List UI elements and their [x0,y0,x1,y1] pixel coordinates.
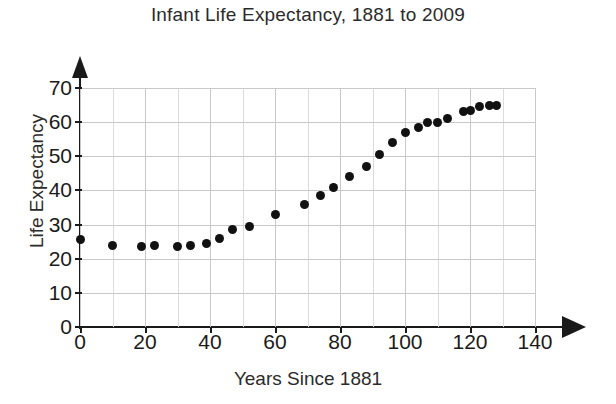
y-tick-mark [75,87,82,89]
x-tick-label: 20 [115,331,175,352]
data-point [76,235,85,244]
gridline-vertical [210,88,211,327]
data-point [433,118,442,127]
x-tick-label: 140 [505,331,565,352]
gridline-vertical [405,88,406,327]
x-tick-mark [210,327,212,333]
gridline-horizontal [80,225,535,226]
chart-title: Infant Life Expectancy, 1881 to 2009 [0,4,616,26]
x-tick-mark [340,327,342,333]
chart-container: Infant Life Expectancy, 1881 to 2009 010… [0,0,616,404]
data-point [271,210,280,219]
data-point [362,162,371,171]
y-tick-mark [75,189,82,191]
x-tick-label: 120 [440,331,500,352]
x-axis-arrow-icon [562,316,586,338]
gridline-horizontal [80,88,535,89]
data-point [401,128,410,137]
data-point [150,241,159,250]
x-axis-title: Years Since 1881 [0,368,616,390]
y-tick-mark [75,258,82,260]
data-point [186,241,195,250]
y-tick-mark [75,121,82,123]
x-tick-mark [535,327,537,333]
gridline-vertical [145,88,146,327]
y-axis-arrow-icon [72,56,88,78]
gridline-horizontal [80,293,535,294]
data-point [388,138,397,147]
data-point [108,241,117,250]
data-point [228,225,237,234]
data-point [300,200,309,209]
gridline-vertical [340,88,341,327]
gridline-vertical [535,88,536,327]
data-point [375,150,384,159]
y-tick-mark [75,155,82,157]
x-tick-mark [405,327,407,333]
data-point [475,102,484,111]
x-tick-label: 40 [180,331,240,352]
data-point [466,106,475,115]
x-tick-mark [80,327,82,333]
y-tick-mark [75,292,82,294]
data-point [215,234,224,243]
data-point [316,191,325,200]
x-tick-label: 80 [310,331,370,352]
x-tick-mark [275,327,277,333]
x-tick-label: 100 [375,331,435,352]
gridline-horizontal [80,156,535,157]
plot-area [80,88,535,327]
gridline-vertical [503,88,504,327]
data-point [443,114,452,123]
y-tick-mark [75,224,82,226]
gridline-vertical [178,88,179,327]
x-tick-mark [145,327,147,333]
data-point [345,172,354,181]
data-point [414,123,423,132]
x-tick-mark [470,327,472,333]
gridline-vertical [243,88,244,327]
gridline-vertical [373,88,374,327]
gridline-vertical [470,88,471,327]
x-tick-label: 0 [50,331,110,352]
gridline-vertical [275,88,276,327]
data-point [329,183,338,192]
x-tick-label: 60 [245,331,305,352]
y-axis-title: Life Expectancy [26,66,48,296]
data-point [492,101,501,110]
data-point [173,242,182,251]
gridline-horizontal [80,190,535,191]
data-point [245,222,254,231]
gridline-vertical [113,88,114,327]
data-point [423,118,432,127]
gridline-horizontal [80,259,535,260]
gridline-horizontal [80,122,535,123]
